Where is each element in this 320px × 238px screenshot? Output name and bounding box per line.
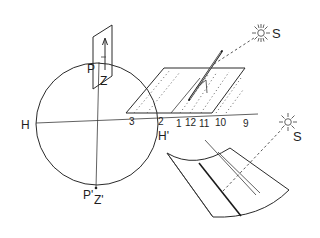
trough-edge-line	[167, 153, 212, 216]
hour-mark: 3	[129, 116, 135, 127]
hour-mark: 12	[185, 117, 197, 128]
label-H: H	[21, 118, 30, 132]
celestial-circle	[36, 63, 158, 185]
hour-mark: 9	[243, 118, 249, 129]
label-Z-prime: Z'	[94, 193, 104, 207]
hour-mark: 1	[176, 118, 182, 129]
cylindrical-dial	[167, 148, 289, 217]
label-sun-bottom: S	[293, 129, 302, 144]
hour-mark: 2	[158, 116, 164, 127]
label-H-prime: H'	[158, 129, 169, 143]
sun-icon-top	[252, 24, 270, 42]
zenith-axis-line	[96, 62, 99, 188]
gnomon-rod-inner	[190, 52, 221, 99]
hour-mark: 11	[199, 118, 210, 129]
sun-ray-top	[214, 38, 254, 64]
hour-mark-labels: 3 2 1 12 11 10 9	[129, 116, 249, 129]
trough-line-2	[218, 152, 260, 193]
label-Z: Z	[100, 74, 107, 88]
sundial-diagram: H H' P Z P' Z' S S 3 2 1 12 11 10 9	[0, 0, 320, 238]
label-P-prime: P'	[83, 188, 93, 202]
sun-ray-bottom	[223, 129, 282, 191]
trough-shadow-line	[199, 163, 241, 216]
plate-inner-edge	[171, 78, 200, 113]
nadir-point	[95, 187, 98, 190]
hour-mark: 10	[215, 117, 227, 128]
label-sun-top: S	[272, 26, 281, 41]
label-P: P	[87, 62, 95, 76]
